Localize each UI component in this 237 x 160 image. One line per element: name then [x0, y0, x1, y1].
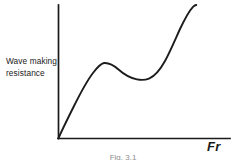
- data-series-group: [59, 5, 197, 138]
- y-axis-label-line-2: resistance: [6, 68, 58, 80]
- wave-making-resistance-figure: Wave making resistance Fr Fig. 3.1: [0, 0, 237, 160]
- x-axis-label: Fr: [207, 139, 220, 154]
- y-axis-label-line-1: Wave making: [6, 56, 58, 68]
- chart-plot-area: [0, 0, 237, 160]
- wave-resistance-curve: [59, 5, 197, 138]
- axes-group: [58, 5, 230, 139]
- figure-caption: Fig. 3.1: [88, 153, 158, 160]
- y-axis-label: Wave making resistance: [6, 56, 58, 79]
